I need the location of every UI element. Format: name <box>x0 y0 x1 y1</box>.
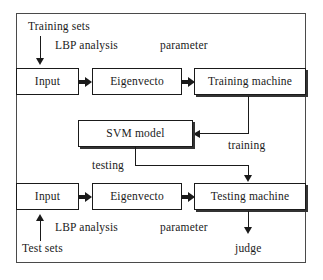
judge-arrow-stem <box>248 211 249 228</box>
training-sets-label: Training sets <box>28 21 90 33</box>
box-training-machine[interactable]: Training machine <box>194 68 306 95</box>
box-svm-model[interactable]: SVM model <box>78 120 193 147</box>
training-edge-arrow-head <box>193 130 200 138</box>
judge-arrow-head <box>244 227 252 234</box>
testing-parameter-label: parameter <box>160 222 208 234</box>
box-svm-model-label: SVM model <box>106 128 164 140</box>
training-parameter-label: parameter <box>160 40 208 52</box>
box-train-eigenvector[interactable]: Eigenvecto <box>92 68 182 95</box>
box-train-input-label: Input <box>35 76 60 88</box>
box-train-eigenvector-label: Eigenvecto <box>110 76 164 88</box>
box-train-input[interactable]: Input <box>16 68 79 95</box>
diagram-canvas: Training sets LBP analysis parameter Inp… <box>0 0 323 280</box>
judge-label: judge <box>235 243 262 255</box>
testing-edge-arrow-head <box>244 175 252 182</box>
training-edge-label: training <box>228 140 265 152</box>
training-sets-arrow-head <box>36 58 44 65</box>
connector-test-input-to-eigenvector <box>79 192 92 202</box>
box-test-input[interactable]: Input <box>16 183 79 210</box>
training-sets-arrow-stem <box>40 36 41 58</box>
box-test-eigenvector-label: Eigenvecto <box>110 191 164 203</box>
testing-edge-horizontal <box>135 165 249 166</box>
connector-train-input-to-eigenvector <box>79 77 92 87</box>
training-edge-horizontal <box>200 133 249 134</box>
testing-edge-label: testing <box>92 160 124 172</box>
testing-lbp-analysis-label: LBP analysis <box>55 222 118 234</box>
test-sets-arrow-stem <box>40 221 41 241</box>
box-testing-machine-label: Testing machine <box>211 191 290 203</box>
box-test-input-label: Input <box>35 191 60 203</box>
test-sets-label: Test sets <box>22 243 63 255</box>
testing-edge-vertical-from-model <box>135 147 136 166</box>
box-training-machine-label: Training machine <box>208 76 292 88</box>
test-sets-arrow-head <box>36 214 44 221</box>
training-lbp-analysis-label: LBP analysis <box>55 40 118 52</box>
training-edge-vertical <box>248 96 249 134</box>
box-test-eigenvector[interactable]: Eigenvecto <box>92 183 182 210</box>
box-testing-machine[interactable]: Testing machine <box>194 183 306 210</box>
